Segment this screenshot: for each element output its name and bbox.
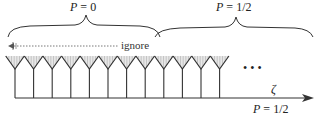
brace-left [8, 15, 160, 37]
v-site [117, 56, 136, 98]
v-site [99, 56, 118, 98]
v-site [210, 56, 229, 98]
label-right-region: P = 1/2 [215, 0, 251, 14]
v-site [173, 56, 192, 98]
ellipsis: • • • [243, 61, 262, 75]
v-site [192, 56, 211, 98]
label-left-region: P = 0 [69, 0, 96, 14]
v-site [24, 56, 43, 98]
brace-right [155, 17, 313, 37]
ignore-arrow [8, 42, 118, 50]
v-site [80, 56, 99, 98]
label-bottom: P = 1/2 [252, 102, 288, 116]
v-sites [6, 56, 229, 98]
zeta-axis [15, 94, 314, 102]
v-site [6, 56, 25, 98]
lattice-diagram: P = 0 P = 1/2 ignore ζ • • • P = 1/2 [0, 0, 318, 121]
ignore-label: ignore [121, 39, 149, 51]
v-site [43, 56, 62, 98]
v-site [155, 56, 174, 98]
axis-label-zeta: ζ [271, 82, 277, 96]
v-site [136, 56, 155, 98]
v-site [62, 56, 81, 98]
